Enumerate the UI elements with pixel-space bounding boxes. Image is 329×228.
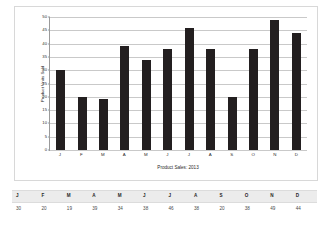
table-header-cell-5: J xyxy=(139,191,164,202)
bar-chart: Product Units Sold 05101520253035404550 … xyxy=(14,6,318,181)
x-tick-label-7: A xyxy=(200,153,222,157)
data-table: JFMAMJJASOND 302019393438463820384944 xyxy=(12,190,317,214)
bar-D-11 xyxy=(292,33,301,150)
table-value-cell-4: 34 xyxy=(114,203,139,215)
bar-cell xyxy=(114,17,135,150)
table-value-cell-0: 30 xyxy=(12,203,37,215)
x-axis-title: Product Sales: 2013 xyxy=(49,165,307,170)
x-tick-label-2: M xyxy=(92,153,114,157)
x-tick-label-4: M xyxy=(135,153,157,157)
bar-cell xyxy=(221,17,242,150)
table-value-cell-1: 20 xyxy=(37,203,62,215)
y-tick-label: 15 xyxy=(42,108,47,112)
chart-page: Product Units Sold 05101520253035404550 … xyxy=(0,0,329,228)
bar-S-8 xyxy=(228,97,237,150)
table-header-cell-11: D xyxy=(292,191,317,202)
bar-J-0 xyxy=(56,70,65,150)
bar-cell xyxy=(264,17,285,150)
bar-A-3 xyxy=(120,46,129,150)
bar-N-10 xyxy=(270,20,279,150)
table-value-cell-7: 38 xyxy=(190,203,215,215)
bar-cell xyxy=(200,17,221,150)
table-header-cell-7: A xyxy=(190,191,215,202)
bar-cell xyxy=(136,17,157,150)
x-tick-label-11: D xyxy=(286,153,308,157)
y-tick-label: 10 xyxy=(42,121,47,125)
gridline xyxy=(50,150,307,151)
bar-O-9 xyxy=(249,49,258,150)
table-value-cell-3: 39 xyxy=(88,203,113,215)
y-tick-label: 30 xyxy=(42,68,47,72)
table-header-cell-3: A xyxy=(88,191,113,202)
plot-area: 05101520253035404550 xyxy=(49,17,307,151)
bar-M-2 xyxy=(99,99,108,150)
x-tick-label-1: F xyxy=(71,153,93,157)
y-tick-label: 25 xyxy=(42,81,47,85)
bar-cell xyxy=(50,17,71,150)
x-tick-label-8: S xyxy=(221,153,243,157)
table-value-cell-9: 38 xyxy=(241,203,266,215)
y-tick-label: 45 xyxy=(42,28,47,32)
x-axis-ticks: JFMAMJJASOND xyxy=(49,153,307,157)
bar-M-4 xyxy=(142,60,151,150)
table-values-row: 302019393438463820384944 xyxy=(12,203,317,215)
table-header-cell-10: N xyxy=(266,191,291,202)
bar-cell xyxy=(286,17,307,150)
x-tick-label-9: O xyxy=(243,153,265,157)
y-tick-label: 35 xyxy=(42,55,47,59)
bar-cell xyxy=(93,17,114,150)
table-value-cell-6: 46 xyxy=(165,203,190,215)
plot-axes: 05101520253035404550 xyxy=(49,17,307,151)
table-header-row: JFMAMJJASOND xyxy=(12,190,317,203)
x-tick-label-10: N xyxy=(264,153,286,157)
table-header-cell-6: J xyxy=(165,191,190,202)
x-tick-label-5: J xyxy=(157,153,179,157)
table-header-cell-9: O xyxy=(241,191,266,202)
bar-F-1 xyxy=(78,97,87,150)
x-tick-label-6: J xyxy=(178,153,200,157)
bar-cell xyxy=(179,17,200,150)
table-value-cell-2: 19 xyxy=(63,203,88,215)
table-header-cell-8: S xyxy=(215,191,240,202)
x-tick-label-0: J xyxy=(49,153,71,157)
y-tick-label: 20 xyxy=(42,95,47,99)
bar-series xyxy=(50,17,307,150)
y-tick-label: 40 xyxy=(42,41,47,45)
table-value-cell-11: 44 xyxy=(292,203,317,215)
bar-A-7 xyxy=(206,49,215,150)
table-value-cell-5: 38 xyxy=(139,203,164,215)
table-header-cell-0: J xyxy=(12,191,37,202)
x-tick-label-3: A xyxy=(114,153,136,157)
bar-J-6 xyxy=(185,28,194,150)
y-tick-label: 5 xyxy=(45,135,47,139)
table-header-cell-1: F xyxy=(37,191,62,202)
bar-J-5 xyxy=(163,49,172,150)
bar-cell xyxy=(71,17,92,150)
bar-cell xyxy=(157,17,178,150)
y-tick-label: 0 xyxy=(45,148,47,152)
table-header-cell-4: M xyxy=(114,191,139,202)
table-value-cell-8: 20 xyxy=(215,203,240,215)
bar-cell xyxy=(243,17,264,150)
y-tick-label: 50 xyxy=(42,15,47,19)
table-header-cell-2: M xyxy=(63,191,88,202)
table-value-cell-10: 49 xyxy=(266,203,291,215)
